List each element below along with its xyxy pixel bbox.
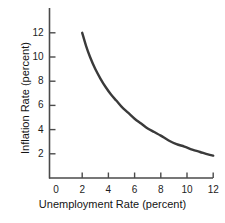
x-axis-title: Unemployment Rate (percent)	[0, 198, 225, 210]
x-tick-label: 10	[176, 184, 198, 195]
phillips-curve-line	[82, 33, 213, 156]
x-tick-label: 12	[202, 184, 224, 195]
y-axis-title: Inflation Rate (percent)	[19, 23, 31, 173]
x-tick-marks	[82, 173, 213, 179]
phillips-curve-figure: 24681012024681012 Unemployment Rate (per…	[0, 0, 225, 223]
x-tick-label: 0	[45, 184, 67, 195]
x-tick-label: 6	[124, 184, 146, 195]
y-tick-marks	[50, 33, 56, 154]
x-tick-label: 2	[71, 184, 93, 195]
x-tick-label: 8	[150, 184, 172, 195]
x-tick-label: 4	[97, 184, 119, 195]
axes-group	[49, 8, 213, 179]
